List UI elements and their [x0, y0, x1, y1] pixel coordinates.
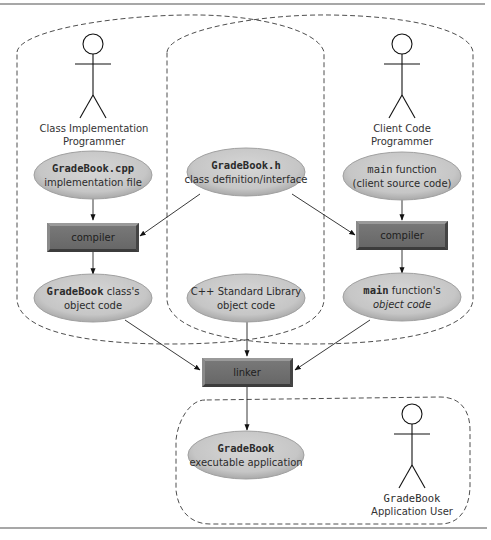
actor-label: Programmer	[63, 136, 126, 147]
node-label: (client source code)	[353, 178, 452, 189]
compilation-diagram: Class Implementation Programmer Client C…	[0, 0, 491, 540]
node-code-label: GradeBook.h	[211, 159, 281, 171]
class-implementation-programmer-actor: Class Implementation Programmer	[40, 34, 149, 147]
stick-figure-icon	[394, 404, 430, 488]
actor-label: Class Implementation	[40, 123, 149, 134]
node-gradebook-obj: GradeBook class's object code	[34, 274, 152, 322]
node-label: object code	[373, 299, 431, 310]
node-label-inline: class's	[103, 286, 139, 297]
node-code-label: GradeBook.cpp	[52, 162, 134, 174]
node-label: executable application	[189, 457, 302, 468]
node-main-obj: main function's object code	[343, 273, 461, 321]
node-label: object code	[64, 300, 122, 311]
node-code-label: GradeBook class's	[47, 285, 140, 297]
node-label: implementation file	[44, 177, 142, 188]
box-label: compiler	[71, 232, 115, 243]
linker-box: linker	[202, 358, 293, 387]
node-code-label: GradeBook	[218, 442, 276, 454]
node-code-label: main function	[367, 163, 436, 175]
actor-label: Client Code	[373, 123, 431, 134]
actor-label: GradeBook	[384, 492, 442, 504]
node-gradebook-h: GradeBook.h class definition/interface	[184, 148, 307, 196]
node-label: class definition/interface	[184, 174, 307, 185]
edge-h-to-compiler-right	[292, 194, 355, 235]
node-label-inline: function's	[389, 285, 441, 296]
stick-figure-icon	[384, 34, 420, 118]
edge-h-to-compiler-left	[140, 194, 200, 236]
edge-main-obj-to-linker	[295, 320, 370, 370]
actor-label: Application User	[371, 506, 454, 517]
node-label-inline: function	[393, 164, 437, 175]
stick-figure-icon	[75, 34, 111, 118]
client-code-programmer-actor: Client Code Programmer	[371, 34, 434, 147]
node-label: C++ Standard Library	[191, 286, 302, 297]
compiler-left-box: compiler	[47, 223, 139, 252]
application-user-actor: GradeBook Application User	[371, 404, 454, 517]
code-token: main	[363, 284, 388, 296]
compiler-right-box: compiler	[356, 221, 448, 250]
node-main-source: main function (client source code)	[343, 152, 461, 200]
node-code-label: main function's	[363, 284, 440, 296]
edge-gradebook-obj-to-linker	[125, 320, 200, 370]
actor-label: Programmer	[371, 136, 434, 147]
node-stdlib-obj: C++ Standard Library object code	[187, 274, 305, 322]
node-label: object code	[217, 300, 275, 311]
box-label: compiler	[380, 230, 424, 241]
box-label: linker	[233, 367, 261, 378]
code-token: main	[367, 163, 392, 175]
node-executable: GradeBook executable application	[188, 431, 304, 479]
node-gradebook-cpp: GradeBook.cpp implementation file	[34, 151, 152, 199]
code-token: GradeBook	[47, 285, 105, 297]
